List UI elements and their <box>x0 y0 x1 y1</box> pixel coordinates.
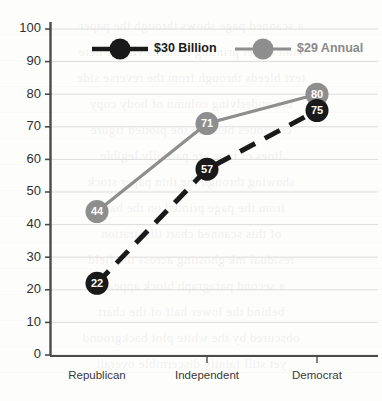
y-tick-label: 100 <box>19 20 41 35</box>
series-points: 447180225775 <box>86 83 329 295</box>
line-chart: 0102030405060708090100 RepublicanIndepen… <box>0 0 382 401</box>
y-axis-ticks: 0102030405060708090100 <box>19 20 51 361</box>
data-point-value-label: 75 <box>311 104 323 116</box>
x-axis-labels: RepublicanIndependentDemocrat <box>68 369 342 381</box>
legend-marker <box>253 39 274 60</box>
y-tick-label: 40 <box>27 216 41 231</box>
y-tick-label: 50 <box>27 183 41 198</box>
legend-label: $29 Annual <box>297 41 363 55</box>
x-axis-category-label: Republican <box>68 369 126 381</box>
y-tick-label: 10 <box>27 314 41 329</box>
legend-marker <box>110 39 131 60</box>
y-tick-label: 80 <box>27 86 41 101</box>
y-tick-label: 30 <box>27 249 41 264</box>
data-point-value-label: 44 <box>91 205 104 217</box>
grid-lines <box>50 29 378 355</box>
series-line <box>97 94 317 211</box>
x-axis-category-label: Democrat <box>292 369 343 381</box>
y-tick-label: 0 <box>34 346 41 361</box>
y-tick-label: 20 <box>27 281 41 296</box>
data-point-value-label: 22 <box>91 277 103 289</box>
data-point-value-label: 57 <box>201 163 213 175</box>
y-tick-label: 90 <box>27 53 41 68</box>
chart-page: a scanned page shows through the paperfa… <box>0 0 382 401</box>
y-tick-label: 70 <box>27 118 41 133</box>
data-point-value-label: 80 <box>311 88 323 100</box>
legend-label: $30 Billion <box>154 41 217 55</box>
x-axis-category-label: Independent <box>175 369 240 381</box>
chart-legend: $30 Billion$29 Annual <box>92 39 363 60</box>
y-tick-label: 60 <box>27 151 41 166</box>
data-point-value-label: 71 <box>201 117 213 129</box>
